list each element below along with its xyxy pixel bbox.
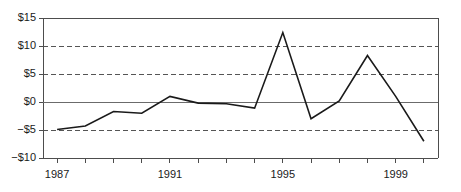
y-axis-tick-label: $15 — [18, 12, 36, 23]
y-axis-tick-label: $5 — [24, 68, 36, 79]
line-chart: $15$10$5$0−$5−$10 1987199119951999 — [0, 0, 461, 192]
x-axis-tick-label: 1987 — [37, 169, 77, 180]
chart-plot-area — [0, 0, 461, 192]
y-axis-tick-label: −$5 — [17, 124, 36, 135]
data-series-group — [57, 33, 424, 142]
x-axis-tick-label: 1995 — [263, 169, 303, 180]
x-axis-tick-label: 1999 — [376, 169, 416, 180]
y-axis-tick-label: −$10 — [11, 152, 36, 163]
y-axis-tick-label: $0 — [24, 96, 36, 107]
x-axis-ticks-group — [39, 18, 424, 163]
data-line — [57, 33, 424, 142]
y-axis-tick-label: $10 — [18, 40, 36, 51]
axis-lines-group — [43, 18, 438, 158]
x-axis-tick-label: 1991 — [150, 169, 190, 180]
